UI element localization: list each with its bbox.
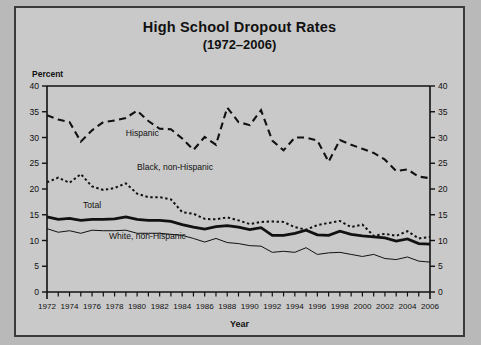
series-line-0 xyxy=(47,108,430,179)
chart-figure: High School Dropout Rates (1972–2006) Pe… xyxy=(14,6,465,337)
series-line-3 xyxy=(47,229,430,262)
x-tick-label: 2004 xyxy=(398,302,417,311)
y-tick-label-right: 0 xyxy=(438,287,443,297)
y-tick-label-right: 10 xyxy=(438,236,448,246)
y-tick-label-left: 30 xyxy=(29,133,39,143)
series-label-2: Total xyxy=(83,200,101,210)
series-label-0: Hispanic xyxy=(126,128,160,138)
series-line-1 xyxy=(47,174,430,238)
x-tick-label: 2002 xyxy=(376,302,395,311)
y-tick-label-right: 15 xyxy=(438,210,448,220)
x-tick-label: 1990 xyxy=(241,302,260,311)
x-tick-label: 1994 xyxy=(286,302,305,311)
series-label-1: Black, non-Hispanic xyxy=(137,162,214,172)
y-tick-label-left: 25 xyxy=(29,158,39,168)
x-axis-label: Year xyxy=(16,319,463,329)
y-tick-label-right: 30 xyxy=(438,133,448,143)
y-tick-label-left: 40 xyxy=(29,81,39,91)
x-tick-label: 1972 xyxy=(38,302,57,311)
y-tick-label-right: 20 xyxy=(438,184,448,194)
x-tick-label: 1996 xyxy=(308,302,327,311)
x-tick-label: 2006 xyxy=(421,302,440,311)
y-tick-label-right: 40 xyxy=(438,81,448,91)
y-tick-label-right: 25 xyxy=(438,158,448,168)
y-tick-label-left: 10 xyxy=(29,236,39,246)
y-tick-label-right: 35 xyxy=(438,107,448,117)
x-tick-label: 1980 xyxy=(128,302,147,311)
y-tick-label-left: 15 xyxy=(29,210,39,220)
x-tick-label: 1988 xyxy=(218,302,237,311)
x-tick-label: 1984 xyxy=(173,302,192,311)
x-tick-label: 1976 xyxy=(83,302,102,311)
x-tick-label: 1974 xyxy=(61,302,80,311)
x-tick-label: 1982 xyxy=(151,302,170,311)
y-tick-label-left: 35 xyxy=(29,107,39,117)
plot-area: 0055101015152020252530303535404019721974… xyxy=(16,8,467,339)
y-tick-label-left: 0 xyxy=(34,287,39,297)
x-tick-label: 1998 xyxy=(331,302,350,311)
series-label-3: White, non-Hispanic xyxy=(109,231,187,241)
y-tick-label-left: 20 xyxy=(29,184,39,194)
x-tick-label: 1986 xyxy=(196,302,215,311)
y-tick-label-left: 5 xyxy=(34,261,39,271)
x-tick-label: 1978 xyxy=(106,302,125,311)
y-tick-label-right: 5 xyxy=(438,261,443,271)
x-tick-label: 1992 xyxy=(263,302,282,311)
x-tick-label: 2000 xyxy=(353,302,372,311)
